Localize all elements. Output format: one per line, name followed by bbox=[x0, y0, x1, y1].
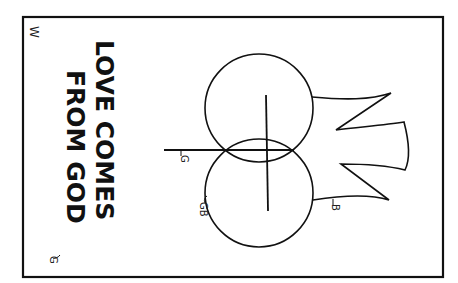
key-label-corner: W bbox=[28, 26, 40, 38]
banner-shape bbox=[312, 93, 409, 200]
title-line-2: FROM GOD bbox=[63, 70, 88, 224]
key-label-title: G bbox=[48, 256, 58, 264]
key-label-lower-circle: GB bbox=[198, 202, 208, 217]
key-label-banner: B bbox=[330, 204, 340, 211]
lower-circle bbox=[205, 139, 313, 247]
upper-circle bbox=[205, 54, 313, 162]
key-label-horizontal-bar: G bbox=[179, 155, 189, 163]
title-line-1: LOVE COMES bbox=[92, 40, 117, 220]
vertical-bar bbox=[266, 95, 268, 211]
